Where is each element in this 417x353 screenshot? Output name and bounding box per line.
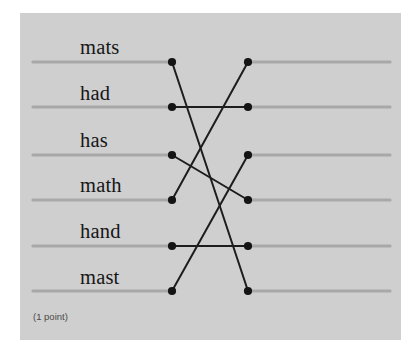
node-dot-R6[interactable] <box>244 287 252 295</box>
node-dot-R3[interactable] <box>244 151 252 159</box>
node-dot-L4[interactable] <box>168 196 176 204</box>
node-dot-L3[interactable] <box>168 151 176 159</box>
word-label-math: math <box>80 175 122 196</box>
word-label-mats: mats <box>80 37 120 58</box>
word-label-hand: hand <box>80 221 121 242</box>
node-dot-L2[interactable] <box>168 103 176 111</box>
matching-diagram[interactable] <box>20 13 401 340</box>
node-dot-L6[interactable] <box>168 287 176 295</box>
connector-lines-group <box>172 62 248 291</box>
node-dot-R1[interactable] <box>244 58 252 66</box>
word-label-mast: mast <box>80 267 120 288</box>
node-dot-R2[interactable] <box>244 103 252 111</box>
word-label-has: has <box>80 130 108 151</box>
points-note: (1 point) <box>33 311 68 322</box>
node-dot-L1[interactable] <box>168 58 176 66</box>
word-label-had: had <box>80 83 110 104</box>
node-dot-L5[interactable] <box>168 242 176 250</box>
node-dot-R4[interactable] <box>244 196 252 204</box>
node-dot-R5[interactable] <box>244 242 252 250</box>
quiz-panel: matshadhasmathhandmast (1 point) <box>20 13 401 340</box>
